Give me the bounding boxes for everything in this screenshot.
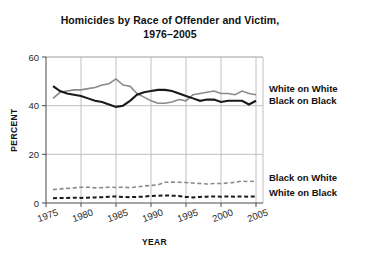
axes: [46, 57, 263, 203]
series-label-white-on-black: White on Black: [269, 187, 338, 198]
data-series: [53, 79, 256, 198]
series-label-black-on-black: Black on Black: [269, 95, 337, 106]
x-tick-label: 1995: [176, 206, 200, 224]
series-labels: White on WhiteBlack on BlackBlack on Whi…: [269, 83, 338, 197]
x-tick-label: 1980: [71, 206, 95, 224]
x-tick-label: 1985: [106, 206, 130, 224]
y-tick-label: 0: [34, 198, 39, 209]
y-axis-title: PERCENT: [9, 108, 19, 152]
axis-titles: YEARPERCENT: [9, 108, 167, 247]
x-tick-label: 1990: [141, 206, 165, 224]
y-tick-label: 60: [28, 52, 39, 63]
y-tick-label: 40: [28, 100, 39, 111]
x-tick-label: 2000: [211, 206, 235, 224]
x-tick-label: 2005: [246, 206, 270, 224]
x-tick-label: 1975: [36, 206, 60, 224]
series-label-black-on-white: Black on White: [269, 172, 337, 183]
gridlines: [46, 57, 263, 203]
series-label-white-on-white: White on White: [269, 83, 338, 94]
series-line-white-on-black: [53, 195, 256, 198]
x-axis-title: YEAR: [142, 237, 167, 247]
y-tick-labels: 0204060: [28, 52, 39, 209]
x-tick-labels: 1975198019851990199520002005: [36, 206, 270, 224]
y-tick-label: 20: [28, 149, 39, 160]
tick-marks: [42, 57, 256, 207]
chart-figure: Homicides by Race of Offender and Victim…: [0, 0, 374, 260]
series-line-black-on-white: [53, 181, 256, 190]
line-chart-plot: 0204060 1975198019851990199520002005 Whi…: [0, 0, 374, 260]
